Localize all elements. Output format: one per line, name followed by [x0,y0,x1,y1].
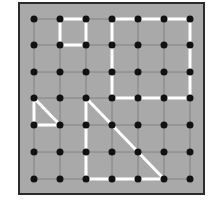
peg [135,176,142,183]
peg [57,16,64,23]
peg [135,69,142,76]
peg [135,42,142,49]
peg [57,122,64,129]
geoboard-diagram [0,0,217,207]
peg [109,176,116,183]
peg [187,69,194,76]
peg [109,16,116,23]
peg [161,42,168,49]
small-triangle-band [34,98,60,125]
peg [109,149,116,156]
peg [161,16,168,23]
peg [161,122,168,129]
peg [187,42,194,49]
peg [31,176,38,183]
peg [31,95,38,102]
peg [135,122,142,129]
peg [161,95,168,102]
peg [57,149,64,156]
peg [31,16,38,23]
peg [57,95,64,102]
large-square-band [112,19,190,98]
peg [187,95,194,102]
peg [83,176,90,183]
peg [135,149,142,156]
peg [161,176,168,183]
peg [187,149,194,156]
peg [109,69,116,76]
peg [161,149,168,156]
peg [83,95,90,102]
large-triangle-band [86,98,164,179]
peg [57,176,64,183]
peg [187,176,194,183]
peg [57,42,64,49]
peg [31,122,38,129]
peg [109,122,116,129]
peg [83,69,90,76]
peg [57,69,64,76]
peg [109,95,116,102]
peg [31,42,38,49]
peg [135,16,142,23]
peg [161,69,168,76]
peg [187,16,194,23]
peg [83,149,90,156]
peg [187,122,194,129]
peg [83,42,90,49]
peg [31,69,38,76]
small-square-band [60,19,86,45]
peg [135,95,142,102]
peg [83,122,90,129]
peg [83,16,90,23]
peg [109,42,116,49]
peg [31,149,38,156]
